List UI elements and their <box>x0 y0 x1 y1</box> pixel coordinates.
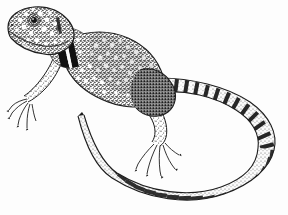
collared-lizard-drawing <box>0 0 288 215</box>
illustration-canvas: collared lizard <box>0 0 288 215</box>
eye <box>28 14 40 26</box>
nostril <box>11 24 13 26</box>
